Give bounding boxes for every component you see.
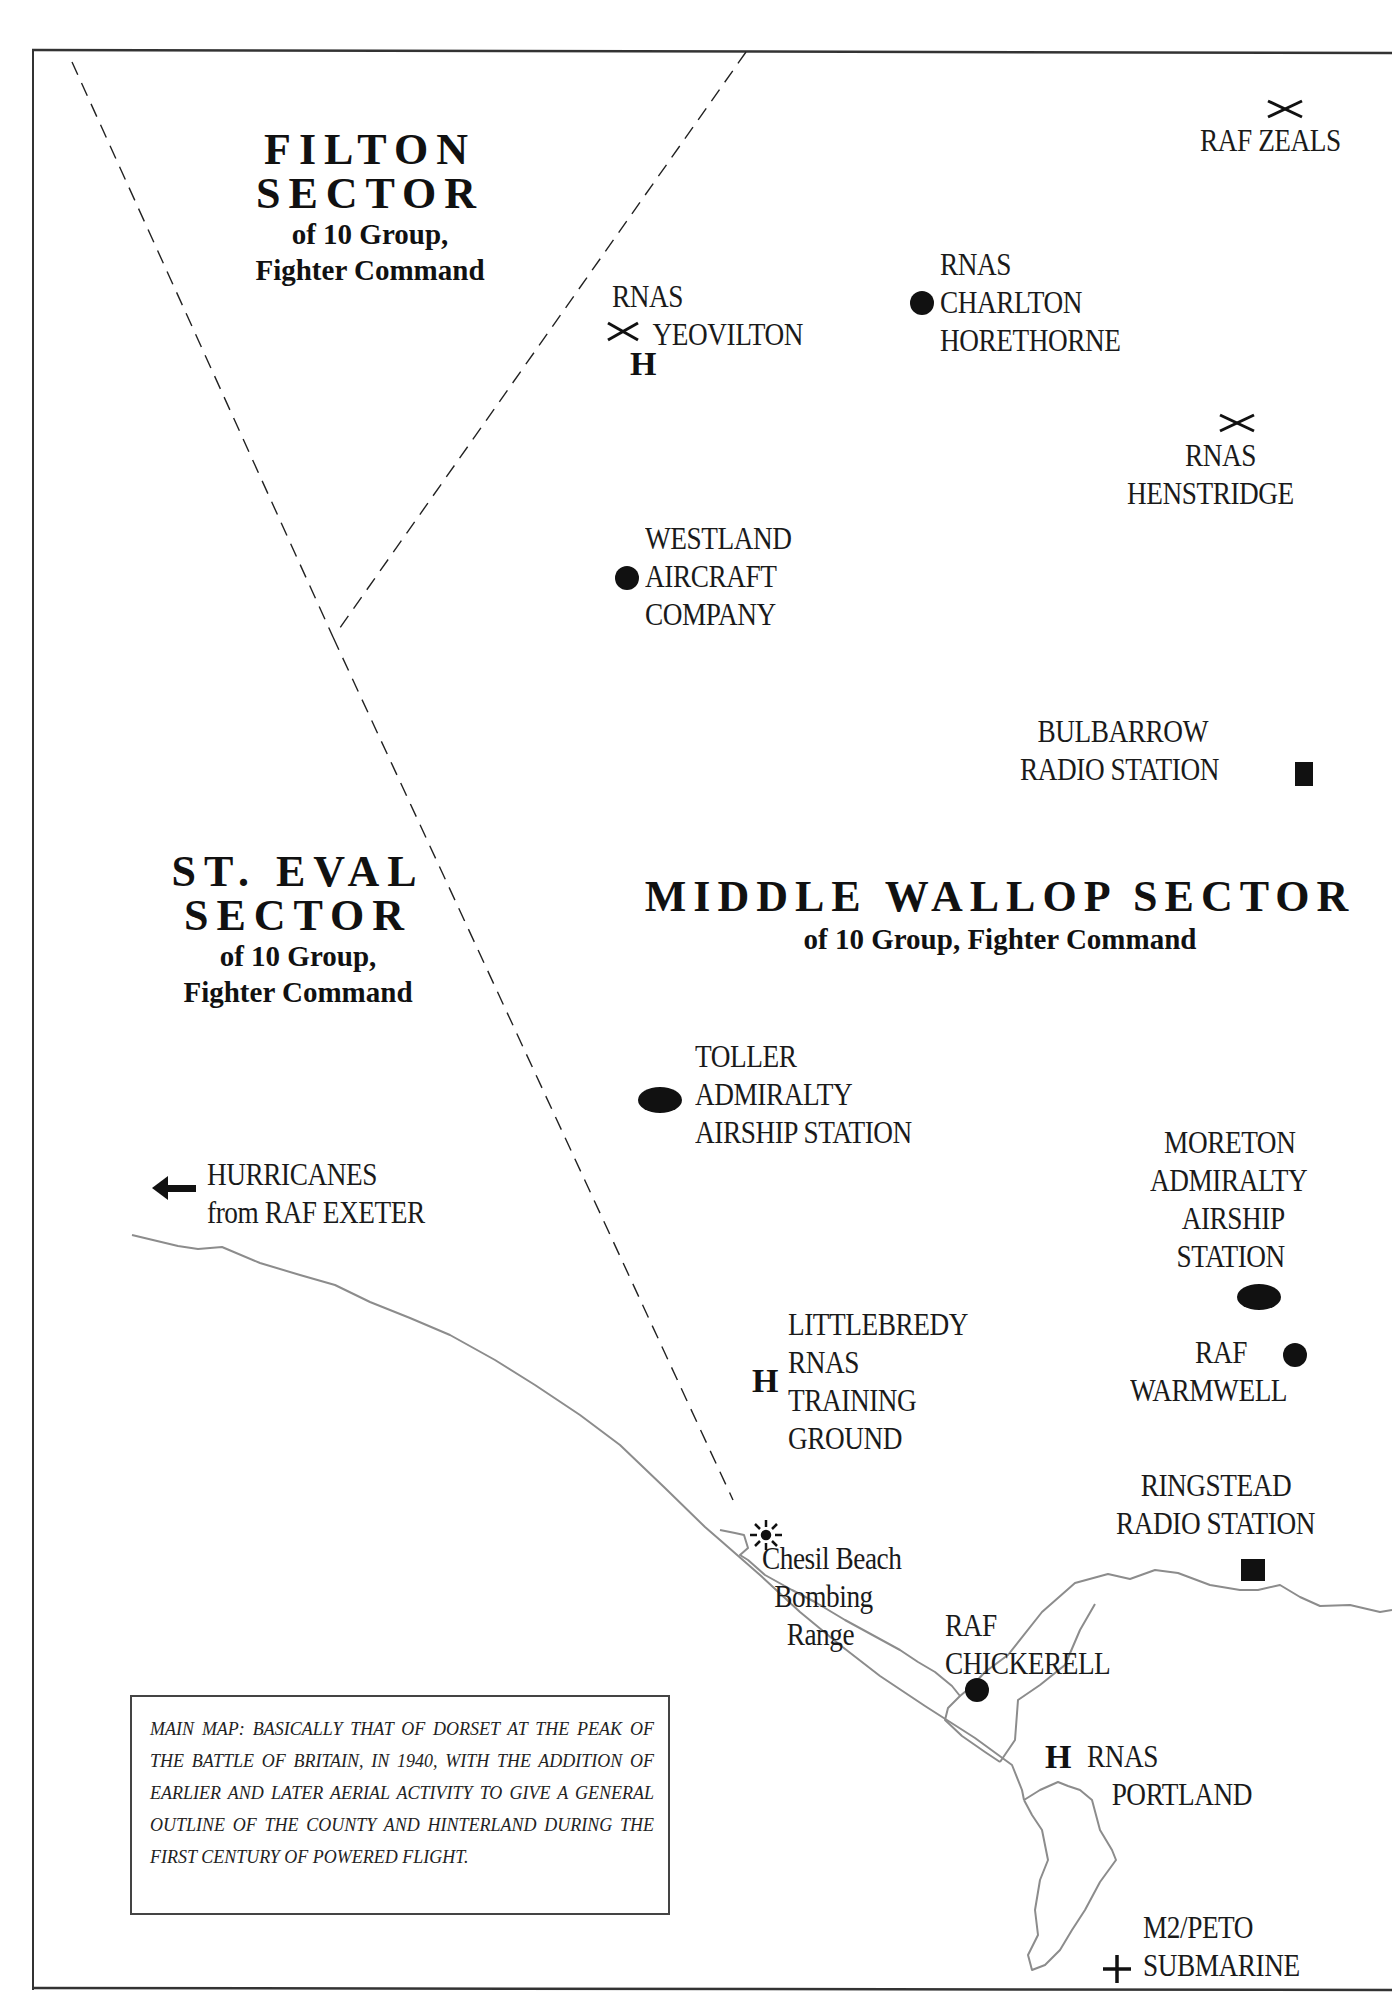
radio-icon-ringstead (1241, 1559, 1265, 1581)
filton-sector-label: FILTON SECTOR of 10 Group, Fighter Comma… (220, 128, 520, 288)
label-raf-chickerell: RAF CHICKERELL (945, 1607, 1110, 1683)
dot-icon-charlton (910, 291, 934, 315)
label-moreton: MORETON ADMIRALTY AIRSHIP STATION (1150, 1124, 1307, 1276)
label-toller: TOLLER ADMIRALTY AIRSHIP STATION (695, 1038, 912, 1152)
filton-sub-2: Fighter Command (220, 252, 520, 288)
middle-wallop-sector-label: MIDDLE WALLOP SECTOR of 10 Group, Fighte… (620, 872, 1380, 956)
st-eval-sector-label: ST. EVAL SECTOR of 10 Group, Fighter Com… (148, 850, 448, 1010)
middle-wallop-title: MIDDLE WALLOP SECTOR (620, 872, 1380, 922)
label-rnas-portland: RNAS PORTLAND (1087, 1738, 1252, 1814)
label-rnas-henstridge: RNAS HENSTRIDGE (1127, 437, 1294, 513)
st-eval-sub-1: of 10 Group, (148, 938, 448, 974)
radio-icon-bulbarrow (1295, 762, 1313, 786)
arrow-left-icon (152, 1176, 196, 1200)
label-westland: WESTLAND AIRCRAFT COMPANY (645, 520, 792, 634)
plus-icon (1103, 1955, 1131, 1983)
st-eval-title-1: ST. EVAL (148, 850, 448, 894)
dot-icon-westland (615, 566, 639, 590)
airfield-icon-raf-zeals (1268, 101, 1302, 117)
label-rnas-charlton-horethorne: RNAS CHARLTON HORETHORNE (940, 246, 1120, 360)
label-bulbarrow: BULBARROW RADIO STATION (1020, 713, 1219, 789)
filton-sub-1: of 10 Group, (220, 216, 520, 252)
heliport-icon-yeovilton: H (630, 345, 656, 383)
filton-title-2: SECTOR (220, 172, 520, 216)
airship-icon-toller (638, 1087, 682, 1113)
middle-wallop-sub: of 10 Group, Fighter Command (620, 922, 1380, 956)
label-littlebredy: LITTLEBREDY RNAS TRAINING GROUND (788, 1306, 968, 1458)
filton-title-1: FILTON (220, 128, 520, 172)
label-raf-warmwell: RAF WARMWELL (1130, 1334, 1287, 1410)
label-rnas-yeovilton: RNAS YEOVILTON (612, 278, 803, 354)
airship-icon-moreton (1237, 1284, 1281, 1310)
st-eval-title-2: SECTOR (148, 894, 448, 938)
map-note-text: Main map: basically that of Dorset at th… (150, 1713, 654, 1873)
airfield-icon-henstridge (1220, 415, 1254, 431)
heliport-icon-littlebredy: H (752, 1362, 778, 1400)
label-m2-peto: M2/PETO SUBMARINE (1143, 1909, 1300, 1985)
map-note-box: Main map: basically that of Dorset at th… (130, 1695, 670, 1915)
label-chesil-beach: Chesil Beach Bombing Range (762, 1540, 901, 1654)
label-raf-zeals: RAF ZEALS (1200, 122, 1341, 160)
heliport-icon-portland: H (1045, 1738, 1071, 1776)
st-eval-sub-2: Fighter Command (148, 974, 448, 1010)
label-ringstead: RINGSTEAD RADIO STATION (1116, 1467, 1315, 1543)
label-hurricanes: HURRICANES from RAF EXETER (207, 1156, 425, 1232)
